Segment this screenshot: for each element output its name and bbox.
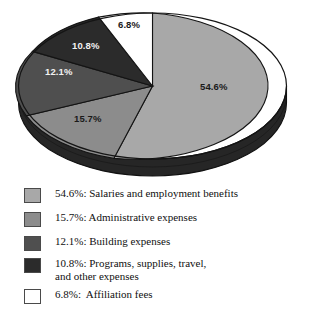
- legend-swatch-building: [24, 236, 41, 251]
- legend-label-building: 12.1%: Building expenses: [55, 235, 170, 248]
- legend-label-salaries: 54.6%: Salaries and employment benefits: [55, 187, 238, 200]
- legend-label-programs: 10.8%: Programs, supplies, travel, and o…: [55, 257, 206, 283]
- legend-item-salaries: 54.6%: Salaries and employment benefits: [24, 187, 238, 203]
- legend-swatch-administrative: [24, 212, 41, 227]
- pie-label-programs: 10.8%: [72, 41, 99, 51]
- legend-swatch-salaries: [24, 188, 41, 203]
- legend-item-building: 12.1%: Building expenses: [24, 235, 170, 251]
- pie-chart-graphic: 54.6% 15.7% 12.1% 10.8% 6.8%: [0, 0, 310, 180]
- legend-swatch-programs: [24, 258, 41, 273]
- pie-label-building: 12.1%: [45, 67, 72, 77]
- legend-swatch-affiliation: [24, 289, 41, 304]
- pie-label-affiliation: 6.8%: [118, 20, 140, 30]
- pie-chart-svg: [0, 0, 310, 180]
- legend-item-affiliation: 6.8%: Affiliation fees: [24, 288, 153, 304]
- pie-label-salaries: 54.6%: [200, 82, 227, 92]
- legend-item-administrative: 15.7%: Administrative expenses: [24, 211, 197, 227]
- pie-slices: [16, 13, 269, 159]
- legend-item-programs: 10.8%: Programs, supplies, travel, and o…: [24, 257, 206, 283]
- chart-legend: 54.6%: Salaries and employment benefits …: [0, 183, 310, 327]
- legend-label-affiliation: 6.8%: Affiliation fees: [55, 288, 153, 301]
- pie-label-administrative: 15.7%: [74, 114, 101, 124]
- pie-chart-figure: 54.6% 15.7% 12.1% 10.8% 6.8% 54.6%: Sala…: [0, 0, 310, 327]
- legend-label-administrative: 15.7%: Administrative expenses: [55, 211, 197, 224]
